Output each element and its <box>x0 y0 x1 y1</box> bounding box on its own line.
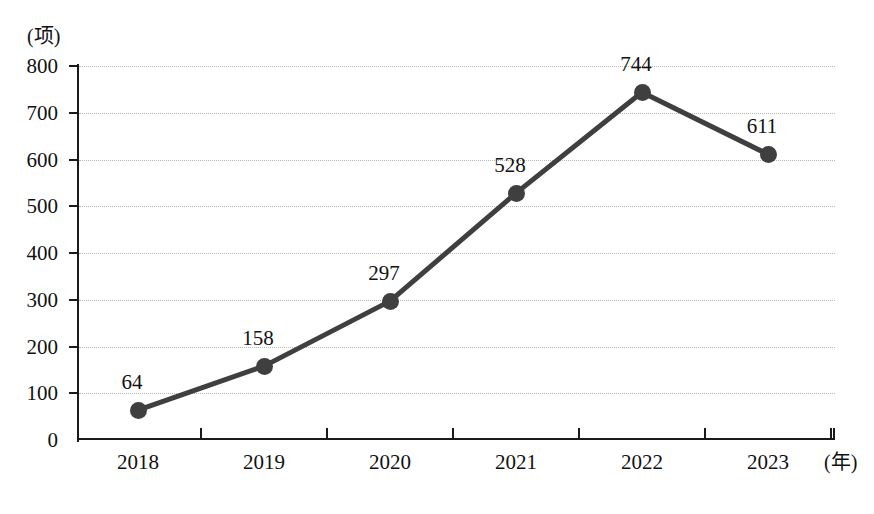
data-point-marker <box>256 358 273 375</box>
data-point-marker <box>508 185 525 202</box>
data-point-label: 528 <box>475 155 545 176</box>
data-point-marker <box>130 402 147 419</box>
gridline <box>79 300 835 301</box>
y-axis-tick <box>69 346 78 348</box>
y-axis-tick <box>69 159 78 161</box>
x-axis-tick <box>830 428 832 439</box>
x-axis-tick-label: 2023 <box>728 452 808 473</box>
gridline <box>79 253 835 254</box>
gridline <box>79 66 835 67</box>
x-axis-tick <box>704 428 706 439</box>
x-axis-left-cap <box>77 428 79 439</box>
y-axis-tick-label: 500 <box>0 196 58 217</box>
gridline <box>79 393 835 394</box>
data-point-marker <box>382 293 399 310</box>
x-axis-unit-label: (年) <box>824 452 857 472</box>
chart-canvas: (项) (年) 0100200300400500600700800 201820… <box>0 0 874 514</box>
x-axis-tick <box>200 428 202 439</box>
y-axis-tick <box>69 112 78 114</box>
data-point-marker <box>760 146 777 163</box>
y-axis-tick-label: 400 <box>0 243 58 264</box>
y-axis-tick-label: 800 <box>0 56 58 77</box>
gridline <box>79 113 835 114</box>
x-axis-tick <box>578 428 580 439</box>
gridline <box>79 160 835 161</box>
data-point-label: 64 <box>97 372 167 393</box>
gridline <box>79 347 835 348</box>
gridline <box>79 206 835 207</box>
x-axis-tick <box>452 428 454 439</box>
data-point-label: 744 <box>601 54 671 75</box>
x-axis-tick-label: 2021 <box>476 452 556 473</box>
x-axis-tick-label: 2019 <box>224 452 304 473</box>
y-axis-tick-label: 100 <box>0 383 58 404</box>
data-point-label: 158 <box>223 328 293 349</box>
x-axis-right-cap <box>833 428 835 439</box>
y-axis-tick <box>69 299 78 301</box>
y-axis-tick-label: 200 <box>0 337 58 358</box>
y-axis-tick <box>69 65 78 67</box>
x-axis-tick-label: 2020 <box>350 452 430 473</box>
y-axis-tick-label: 600 <box>0 150 58 171</box>
y-axis-tick-label: 300 <box>0 290 58 311</box>
data-point-marker <box>634 84 651 101</box>
y-axis-unit-label: (项) <box>27 26 60 46</box>
y-axis-tick-label: 0 <box>0 430 58 451</box>
y-axis-tick <box>69 252 78 254</box>
data-point-label: 297 <box>349 263 419 284</box>
y-axis-tick <box>69 205 78 207</box>
x-axis-line <box>77 438 835 440</box>
x-axis-tick-label: 2018 <box>98 452 178 473</box>
x-axis-tick-label: 2022 <box>602 452 682 473</box>
x-axis-tick <box>326 428 328 439</box>
y-axis-tick <box>69 392 78 394</box>
y-axis-tick-label: 700 <box>0 103 58 124</box>
series-line <box>0 0 874 514</box>
data-point-label: 611 <box>727 116 797 137</box>
